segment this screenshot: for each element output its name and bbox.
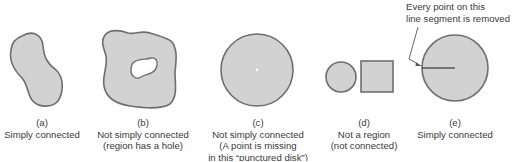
caption-c-line-3: in this “punctured disk”) xyxy=(208,152,308,162)
caption-b-line-2: (region has a hole) xyxy=(97,140,189,152)
region-c-puncture-point xyxy=(256,69,258,71)
caption-c-line-1: Not simply connected xyxy=(208,129,308,141)
caption-a-letter: (a) xyxy=(4,117,80,129)
region-a-blob xyxy=(11,33,63,106)
caption-b-letter: (b) xyxy=(97,117,189,129)
region-d-circle xyxy=(326,62,356,92)
caption-b-line-1: Not simply connected xyxy=(97,129,189,141)
annotation-line-1: Every point on this xyxy=(406,1,510,13)
caption-c: (c) Not simply connected (A point is mis… xyxy=(208,117,308,161)
region-d-square xyxy=(361,61,393,92)
annotation-line-2: line segment is removed xyxy=(406,13,510,25)
caption-e: (e) Simply connected xyxy=(417,117,493,140)
annotation-leader-line xyxy=(409,27,418,64)
caption-c-line-2: (A point is missing xyxy=(208,140,308,152)
caption-d-letter: (d) xyxy=(331,117,398,129)
caption-e-line-1: Simply connected xyxy=(417,129,493,141)
caption-d-line-2: (not connected) xyxy=(331,140,398,152)
annotation-arrowhead-icon xyxy=(416,63,423,67)
caption-a: (a) Simply connected xyxy=(4,117,80,140)
caption-b: (b) Not simply connected (region has a h… xyxy=(97,117,189,152)
caption-c-letter: (c) xyxy=(208,117,308,129)
caption-a-line-1: Simply connected xyxy=(4,129,80,141)
annotation-text: Every point on this line segment is remo… xyxy=(406,1,510,24)
caption-d: (d) Not a region (not connected) xyxy=(331,117,398,152)
caption-d-line-1: Not a region xyxy=(331,129,398,141)
caption-e-letter: (e) xyxy=(417,117,493,129)
